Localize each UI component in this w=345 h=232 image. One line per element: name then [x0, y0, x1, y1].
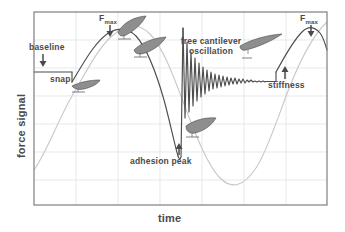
force-curve-plot — [0, 0, 345, 232]
fmax-right-subscript: max — [305, 19, 318, 25]
oscillation-label-line2: oscillation — [189, 46, 233, 56]
oscillation-label-line1: free cantilever — [181, 36, 242, 46]
adhesion-peak-label: adhesion peak — [130, 157, 192, 166]
y-axis-label: force signal — [16, 94, 28, 158]
stiffness-label: stiffness — [268, 81, 305, 90]
force-curve-figure: force signal time baseline snap Fmax Fma… — [0, 0, 345, 232]
snap-label: snap — [50, 75, 71, 84]
fmax-left-label: Fmax — [99, 14, 117, 25]
fmax-left-subscript: max — [104, 19, 117, 25]
x-axis-label: time — [158, 213, 181, 225]
baseline-label: baseline — [29, 43, 65, 52]
free-cantilever-oscillation-label: free cantilever oscillation — [172, 37, 250, 56]
fmax-right-label: Fmax — [300, 14, 318, 25]
